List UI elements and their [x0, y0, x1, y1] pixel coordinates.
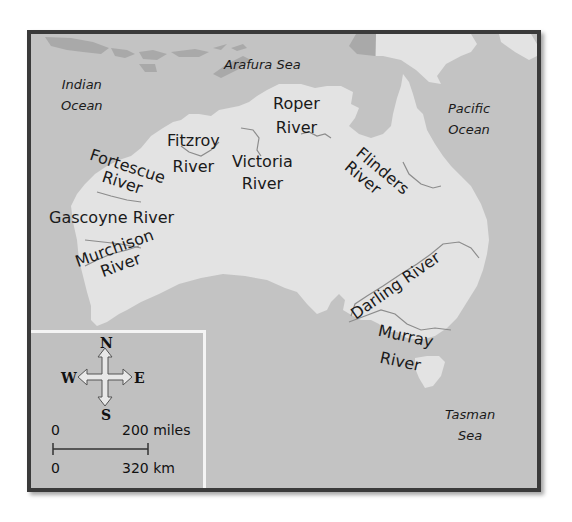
label-line: River: [273, 116, 320, 140]
legend-box: N S W E 0 200 miles 0 320 km: [31, 330, 206, 490]
label-line: Tasman: [445, 404, 495, 425]
compass-west: W: [61, 370, 77, 386]
label-line: Roper: [273, 92, 320, 116]
label-line: Pacific: [448, 98, 490, 119]
label-line: River: [167, 154, 220, 180]
label-gascoyne-river: Gascoyne River: [49, 206, 174, 230]
label-line: Arafura Sea: [224, 54, 301, 75]
scale-line: [51, 441, 151, 457]
label-arafura-sea: Arafura Sea: [224, 54, 301, 75]
compass-north: N: [100, 335, 113, 351]
label-pacific-ocean: Pacific Ocean: [448, 98, 490, 140]
label-line: Gascoyne River: [49, 206, 174, 230]
label-indian-ocean: Indian Ocean: [61, 74, 103, 116]
compass-arrows-icon: [76, 347, 134, 407]
label-line: River: [232, 173, 293, 195]
scale-miles-start: 0: [51, 422, 60, 438]
scale-miles-end: 200 miles: [122, 422, 191, 438]
scale-km-start: 0: [51, 460, 60, 476]
compass-east: E: [134, 370, 145, 386]
label-line: Ocean: [61, 95, 103, 116]
map-frame: Indian Ocean Arafura Sea Pacific Ocean T…: [27, 30, 541, 492]
label-murray-river: Murray River: [370, 318, 436, 381]
compass-rose: N S W E: [31, 333, 206, 423]
label-line: Indian: [61, 74, 103, 95]
label-roper-river: Roper River: [273, 92, 320, 140]
label-line: Ocean: [448, 119, 490, 140]
scale-km-end: 320 km: [122, 460, 175, 476]
label-line: Victoria: [232, 151, 293, 173]
label-line: Fitzroy: [167, 128, 220, 154]
compass-south: S: [101, 407, 111, 423]
new-guinea: [376, 34, 537, 84]
neighbor-islands: [45, 34, 376, 78]
label-fitzroy-river: Fitzroy River: [167, 128, 220, 180]
label-victoria-river: Victoria River: [232, 151, 293, 195]
label-line: Sea: [445, 425, 495, 446]
label-tasman-sea: Tasman Sea: [445, 404, 495, 446]
